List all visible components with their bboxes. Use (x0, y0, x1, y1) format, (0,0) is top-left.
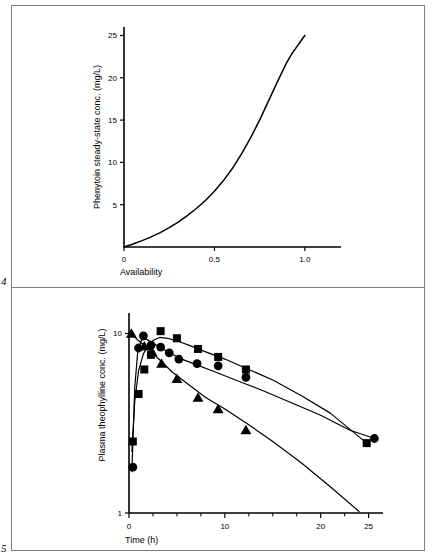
y-tick-label: 10 (108, 158, 117, 167)
figure-number-5: 5 (1, 543, 7, 554)
theophylline-time-chart: 1100102025Time (h)Plasma theophylline co… (11, 288, 425, 550)
data-point-circle (370, 434, 379, 443)
phenytoin-curve (124, 35, 305, 247)
data-point-circle (174, 355, 183, 364)
y-tick-label: 20 (108, 74, 117, 83)
y-axis-title: Plasma theophylline conc. (mg/L) (97, 328, 107, 461)
y-tick-label: 25 (108, 31, 117, 40)
data-point-circle (156, 343, 165, 352)
y-tick-label: 5 (113, 201, 118, 210)
x-tick-label: 20 (316, 522, 325, 531)
data-point-triangle (156, 358, 167, 367)
figure-5-panel: 1100102025Time (h)Plasma theophylline co… (11, 288, 425, 550)
phenytoin-availability-chart: 51015202500.51.0AvailabilityPhenytoin st… (11, 6, 425, 287)
data-point-triangle (240, 425, 251, 434)
figure-number-4: 4 (1, 276, 7, 287)
x-tick-label: 1.0 (299, 255, 311, 264)
series-3 (126, 328, 359, 511)
data-point-square (214, 353, 222, 361)
x-tick-label: 25 (364, 522, 373, 531)
figure-page: 4 5 51015202500.51.0AvailabilityPhenytoi… (0, 0, 437, 560)
series-2-curve (132, 339, 374, 472)
data-point-circle (165, 348, 174, 357)
x-tick-label: 0.5 (209, 255, 221, 264)
data-point-circle (214, 361, 223, 370)
data-point-square (140, 365, 148, 373)
data-point-circle (242, 373, 251, 382)
data-point-triangle (193, 392, 204, 401)
data-point-square (194, 345, 202, 353)
x-tick-label: 0 (122, 255, 127, 264)
y-tick-label: 10 (113, 329, 122, 338)
data-point-circle (193, 359, 202, 368)
y-axis-title: Phenytoin steady-state conc. (mg/L) (92, 65, 102, 209)
figure-4-panel: 51015202500.51.0AvailabilityPhenytoin st… (11, 6, 425, 287)
data-point-triangle (213, 404, 224, 413)
data-point-square (157, 327, 165, 335)
y-tick-label: 15 (108, 116, 117, 125)
data-point-square (173, 334, 181, 342)
x-tick-label: 0 (127, 522, 132, 531)
data-point-circle (139, 331, 148, 340)
x-axis-title: Availability (120, 267, 163, 277)
series-2 (128, 331, 378, 471)
series-3-curve (131, 333, 359, 511)
y-tick-label: 1 (118, 509, 123, 518)
x-tick-label: 10 (220, 522, 229, 531)
data-point-square (363, 439, 371, 447)
x-axis-title: Time (h) (125, 535, 158, 545)
data-point-circle (128, 463, 137, 472)
data-point-square (135, 390, 143, 398)
data-point-square (242, 365, 250, 373)
